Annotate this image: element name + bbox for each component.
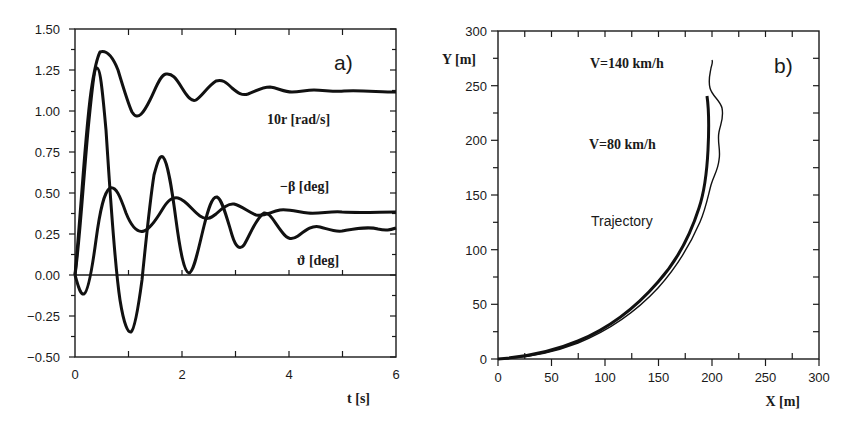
x-tick-label: 250: [755, 370, 777, 385]
y-tick-label: 50: [473, 297, 487, 312]
x-tick-label: 6: [392, 367, 399, 382]
y-tick-label: 300: [465, 24, 487, 39]
y-tick-label: 0.00: [35, 268, 60, 283]
series-label-10r: 10r [rad/s]: [267, 112, 330, 127]
series-label-beta: −β [deg]: [280, 179, 329, 194]
curve-minus-beta: [75, 68, 396, 332]
chart-a: 1.50 1.25 1.00 0.75 0.50 0.25 0.00 −0.25…: [27, 22, 400, 406]
y-tick-label: 0.25: [35, 227, 60, 242]
x-tick-label: 0: [71, 367, 78, 382]
curve-v140: [498, 60, 723, 359]
panel-label-a: a): [334, 51, 353, 74]
plot-frame-a: [75, 29, 396, 357]
y-tick-label: 1.25: [35, 63, 60, 78]
x-axis-label-b: X [m]: [765, 394, 800, 409]
y-tick-label: −0.25: [27, 309, 60, 324]
y-axis-label-b: Y [m]: [442, 52, 476, 67]
x-tick-label: 50: [544, 370, 558, 385]
x-tick-label: 300: [808, 370, 830, 385]
x-tick-label: 150: [648, 370, 670, 385]
y-tick-label: 1.00: [35, 104, 60, 119]
y-tick-label: 250: [465, 79, 487, 94]
y-tick-label: 0: [480, 352, 487, 367]
y-tick-label: 150: [465, 188, 487, 203]
y-tick-label: −0.50: [27, 350, 60, 365]
panel-label-b: b): [774, 54, 793, 77]
y-tick-label: 200: [465, 133, 487, 148]
x-tick-label: 4: [285, 367, 292, 382]
x-tick-label: 200: [701, 370, 723, 385]
y-tick-label: 100: [465, 243, 487, 258]
chart-b: 300 250 200 150 100 50 0 0 50 100 150 20…: [442, 24, 830, 409]
y-ticks-b: [491, 31, 819, 359]
y-tick-label: 0.50: [35, 186, 60, 201]
x-tick-labels-b: 0 50 100 150 200 250 300: [494, 370, 829, 385]
plot-frame-b: [498, 31, 819, 359]
x-tick-label: 100: [594, 370, 616, 385]
y-tick-label: 1.50: [35, 22, 60, 37]
x-tick-label: 0: [494, 370, 501, 385]
y-tick-labels-b: 300 250 200 150 100 50 0: [465, 24, 487, 367]
y-tick-labels-a: 1.50 1.25 1.00 0.75 0.50 0.25 0.00 −0.25…: [27, 22, 60, 365]
y-tick-label: 0.75: [35, 145, 60, 160]
x-axis-label-a: t [s]: [347, 391, 370, 406]
x-tick-label: 2: [178, 367, 185, 382]
x-tick-labels-a: 0 2 4 6: [71, 367, 399, 382]
series-label-theta: ϑ [deg]: [297, 253, 339, 268]
x-ticks-b: [498, 31, 819, 366]
series-label-v80: V=80 km/h: [589, 137, 656, 152]
trajectory-label: Trajectory: [591, 213, 653, 229]
figure: 1.50 1.25 1.00 0.75 0.50 0.25 0.00 −0.25…: [0, 0, 852, 433]
series-label-v140: V=140 km/h: [590, 56, 664, 71]
